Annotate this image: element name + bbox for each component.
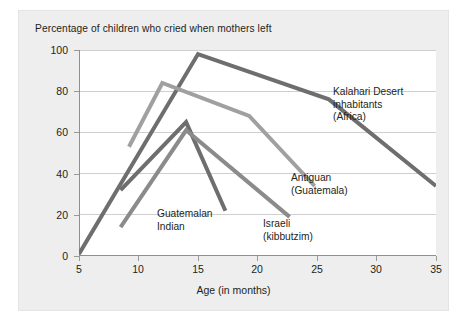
series-label-guatemalan-line1: Guatemalan xyxy=(157,208,213,221)
x-tick-20: 20 xyxy=(237,263,277,275)
x-tick-30: 30 xyxy=(356,263,396,275)
series-label-kalahari-line1: Kalahari Desert xyxy=(333,86,403,99)
chart-title: Percentage of children who cried when mo… xyxy=(35,23,272,34)
x-tick-mark-25 xyxy=(317,256,318,261)
x-tick-mark-5 xyxy=(79,256,80,261)
x-tick-5: 5 xyxy=(59,263,99,275)
y-tick-40: 40 xyxy=(34,168,68,180)
series-label-israeli-line2: (kibbutzim) xyxy=(263,231,313,244)
y-tick-100: 100 xyxy=(34,44,68,56)
series-label-antiguan-line1: Antiguan xyxy=(291,172,348,185)
x-tick-mark-20 xyxy=(257,256,258,261)
series-label-guatemalan: Guatemalan Indian xyxy=(157,208,213,233)
y-tick-80: 80 xyxy=(34,85,68,97)
y-tick-60: 60 xyxy=(34,126,68,138)
x-tick-35: 35 xyxy=(416,263,456,275)
x-tick-mark-15 xyxy=(198,256,199,261)
series-label-israeli-line1: Israeli xyxy=(263,218,313,231)
x-axis-label: Age (in months) xyxy=(0,284,467,296)
y-tick-0: 0 xyxy=(34,250,68,262)
y-tick-20: 20 xyxy=(34,209,68,221)
series-label-antiguan-line2: (Guatemala) xyxy=(291,185,348,198)
series-canvas xyxy=(79,50,436,256)
series-label-israeli: Israeli (kibbutzim) xyxy=(263,218,313,243)
x-tick-mark-35 xyxy=(436,256,437,261)
x-tick-mark-30 xyxy=(376,256,377,261)
plot-area xyxy=(79,50,436,256)
x-tick-mark-10 xyxy=(138,256,139,261)
series-label-antiguan: Antiguan (Guatemala) xyxy=(291,172,348,197)
series-label-guatemalan-line2: Indian xyxy=(157,221,213,234)
series-label-kalahari-line3: (Africa) xyxy=(333,111,403,124)
x-tick-15: 15 xyxy=(178,263,218,275)
series-line-kalahari-desert xyxy=(79,54,436,254)
series-label-kalahari-line2: inhabitants xyxy=(333,99,403,112)
chart-figure-root: Percentage of children who cried when mo… xyxy=(0,0,467,321)
series-label-kalahari: Kalahari Desert inhabitants (Africa) xyxy=(333,86,403,124)
x-tick-10: 10 xyxy=(118,263,158,275)
data-series-group xyxy=(79,54,436,254)
x-tick-25: 25 xyxy=(297,263,337,275)
